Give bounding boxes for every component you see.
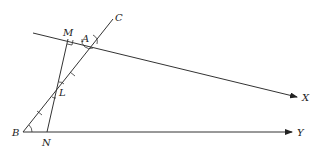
label-c: C [115, 12, 123, 23]
geometry-diagram: M A C L B N X Y [0, 0, 323, 149]
tick-mark-al [70, 72, 75, 76]
angle-arc-b [29, 125, 32, 132]
angle-arc-l-bottom [52, 97, 56, 98]
label-y: Y [297, 127, 305, 138]
label-l: L [58, 87, 66, 98]
segment-mn [47, 39, 68, 132]
label-b: B [11, 127, 19, 138]
label-n: N [41, 137, 52, 148]
label-a: A [81, 33, 89, 44]
label-x: X [301, 92, 310, 103]
label-m: M [62, 27, 74, 38]
